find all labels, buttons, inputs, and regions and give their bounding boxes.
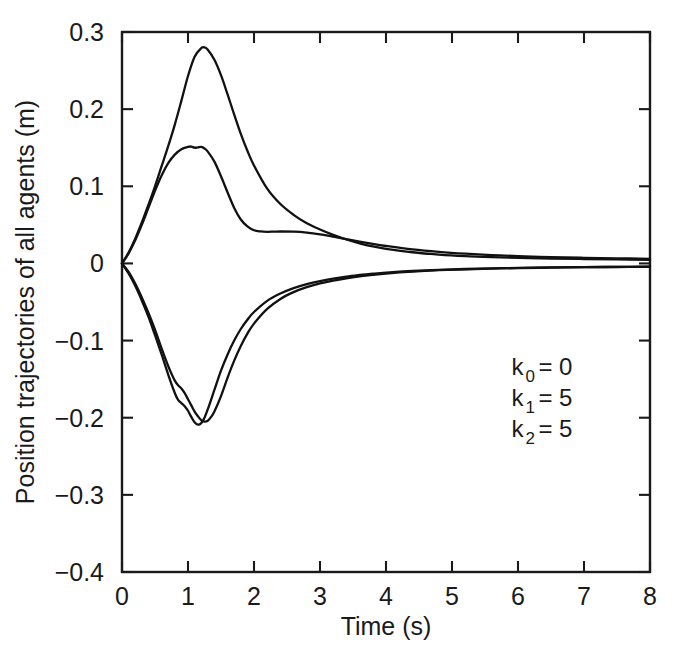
annotation-subscript: 1 [525, 398, 534, 417]
x-tick-label: 7 [577, 582, 591, 610]
annotation-value: = 5 [538, 415, 572, 442]
y-tick-label: −0.1 [55, 327, 104, 355]
annotation-subscript: 0 [525, 367, 534, 386]
figure-container: 012345678 −0.4−0.3−0.2−0.100.10.20.3 k0=… [0, 0, 677, 658]
annotation-value: = 5 [538, 384, 572, 411]
annotation-base: k [511, 384, 524, 411]
x-tick-label: 5 [445, 582, 459, 610]
x-tick-label: 2 [247, 582, 261, 610]
y-tick-label: −0.2 [55, 404, 104, 432]
y-axis-title: Position trajectories of all agents (m) [11, 100, 39, 504]
annotation-base: k [511, 415, 524, 442]
position-trajectories-chart: 012345678 −0.4−0.3−0.2−0.100.10.20.3 k0=… [0, 0, 677, 658]
x-tick-label: 3 [313, 582, 327, 610]
x-tick-label: 6 [511, 582, 525, 610]
x-tick-label: 4 [379, 582, 393, 610]
y-tick-label: 0 [90, 249, 104, 277]
y-tick-label: 0.3 [69, 18, 104, 46]
annotation-value: = 0 [538, 353, 572, 380]
annotations-group: k0= 0k1= 5k2= 5 [511, 353, 572, 448]
y-tick-label: −0.3 [55, 481, 104, 509]
y-tick-label: −0.4 [55, 558, 104, 586]
annotation-base: k [511, 353, 524, 380]
x-tick-label: 0 [115, 582, 129, 610]
x-tick-label: 8 [643, 582, 657, 610]
y-tick-label: 0.1 [69, 172, 104, 200]
x-axis-title: Time (s) [341, 612, 432, 640]
annotation-subscript: 2 [525, 429, 534, 448]
y-tick-label: 0.2 [69, 95, 104, 123]
x-tick-label: 1 [181, 582, 195, 610]
